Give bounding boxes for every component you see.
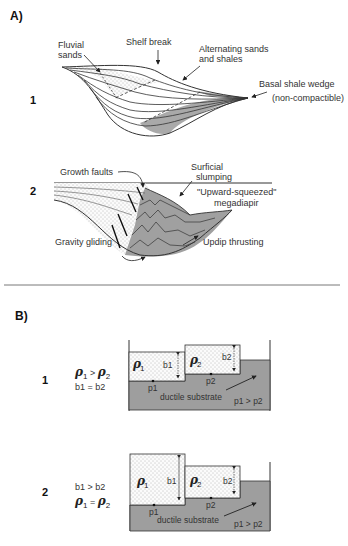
- svg-text:b1: b1: [163, 360, 173, 370]
- label-alternating: Alternating sands: [199, 44, 269, 54]
- label-sands: sands: [58, 50, 83, 60]
- panel-a2-number: 2: [30, 185, 36, 197]
- svg-text:1: 1: [144, 481, 149, 490]
- fluvial-sands-zone: [62, 67, 160, 97]
- svg-text:b2: b2: [223, 476, 233, 486]
- label-upward-squeezed: "Upward-squeezed": [197, 187, 276, 197]
- substrate-label-b1: ductile substrate: [160, 392, 222, 402]
- label-basal-shale: Basal shale wedge: [259, 79, 335, 89]
- panel-a1-number: 1: [30, 94, 36, 106]
- panel-a2: 2 Growth faults Surficial slumping "Upwa…: [30, 162, 276, 261]
- label-megadiapir: megadiapir: [214, 198, 259, 208]
- panel-b2-condition-2: ρ1 = ρ2: [74, 494, 111, 510]
- label-shelf-break: Shelf break: [126, 37, 172, 47]
- panel-b2-number: 2: [42, 486, 48, 498]
- substrate-label-b2: ductile substrate: [157, 515, 219, 525]
- label-surficial: Surficial: [191, 162, 223, 172]
- label-updip-thrusting: Updip thrusting: [203, 237, 264, 247]
- section-a-label: A): [10, 9, 23, 23]
- svg-text:2: 2: [197, 480, 202, 489]
- label-shales: and shales: [199, 54, 243, 64]
- svg-text:2: 2: [197, 360, 202, 369]
- panel-a1: 1 Fluvial sands Shelf break Alternating …: [30, 37, 344, 136]
- section-b-label: B): [15, 309, 28, 323]
- svg-text:1: 1: [140, 364, 145, 373]
- panel-b1-condition-2: b1 = b2: [75, 382, 105, 392]
- pressure-label-b2: p1 > p2: [234, 519, 263, 529]
- panel-b1-condition-1: ρ1 > ρ2: [74, 365, 111, 381]
- diagram-canvas: A) 1 Fluvial sands Shelf break Alternati…: [0, 0, 348, 546]
- svg-text:b2: b2: [222, 352, 232, 362]
- pressure-label-b1: p1 > p2: [234, 396, 263, 406]
- label-slumping: slumping: [196, 172, 232, 182]
- point-p2-b2: p2: [206, 500, 216, 510]
- point-p2-b1: p2: [206, 376, 216, 386]
- label-fluvial: Fluvial: [58, 40, 84, 50]
- svg-text:b1: b1: [167, 476, 177, 486]
- panel-b1-number: 1: [42, 374, 48, 386]
- panel-b2-condition-1: b1 > b2: [75, 482, 105, 492]
- point-p1-b1: p1: [148, 383, 158, 393]
- label-gravity-gliding: Gravity gliding: [55, 237, 112, 247]
- label-non-compactible: (non-compactible): [272, 93, 344, 103]
- label-growth-faults: Growth faults: [60, 167, 114, 177]
- panel-b1: 1 ρ1 > ρ2 b1 = b2 ρ1 b1 ρ2 b2 p1 p2 duct…: [42, 340, 270, 411]
- panel-b2: 2 b1 > b2 ρ1 = ρ2 ρ1 b1 ρ2 b2 p1 p2 duct…: [42, 454, 270, 531]
